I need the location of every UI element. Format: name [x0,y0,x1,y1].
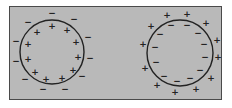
plus-sign: + [63,25,71,35]
plus-sign: + [192,84,200,94]
minus-sign: − [173,76,181,86]
plus-sign: + [171,87,179,97]
minus-sign: − [78,71,86,81]
left-cell: + + + + + + + + + + + − − − − − − − − − … [12,8,94,94]
minus-sign: − [186,73,194,83]
minus-sign: − [200,39,208,49]
minus-sign: − [151,42,159,52]
minus-sign: − [48,8,56,18]
plus-sign: + [163,10,171,20]
minus-sign: − [70,14,78,24]
left-inside-charges: + + + + + + + + + + + [24,21,82,84]
minus-sign: − [194,28,202,38]
right-cell: − − − − − − − − − − − − + + + + + + + + … [139,9,222,97]
plus-sign: + [72,37,80,47]
plus-sign: + [69,65,77,75]
minus-sign: − [152,57,160,67]
minus-sign: − [12,56,20,66]
plus-sign: + [48,21,56,31]
minus-sign: − [160,71,168,81]
minus-sign: − [167,20,175,30]
plus-sign: + [214,52,222,62]
plus-sign: + [74,52,82,62]
plus-sign: + [202,18,210,28]
minus-sign: − [39,84,47,94]
plus-sign: + [213,35,221,45]
minus-sign: − [24,17,32,27]
plus-sign: + [183,9,191,19]
minus-sign: − [61,84,69,94]
minus-sign: − [84,32,92,42]
plus-sign: + [147,21,155,31]
plus-sign: + [207,73,215,83]
membrane-charge-diagram: + + + + + + + + + + + − − − − − − − − − … [0,0,232,108]
minus-sign: − [196,65,204,75]
minus-sign: − [86,53,94,63]
plus-sign: + [33,27,41,37]
minus-sign: − [21,74,29,84]
minus-sign: − [12,36,20,46]
minus-sign: − [183,20,191,30]
right-inside-charges: − − − − − − − − − − − − [151,20,209,86]
plus-sign: + [24,54,32,64]
plus-sign: + [58,73,66,83]
plus-sign: + [42,74,50,84]
plus-sign: + [24,39,32,49]
plus-sign: + [31,67,39,77]
minus-sign: − [156,29,164,39]
plus-sign: + [153,80,161,90]
minus-sign: − [201,52,209,62]
plus-sign: + [139,39,147,49]
plus-sign: + [141,63,149,73]
